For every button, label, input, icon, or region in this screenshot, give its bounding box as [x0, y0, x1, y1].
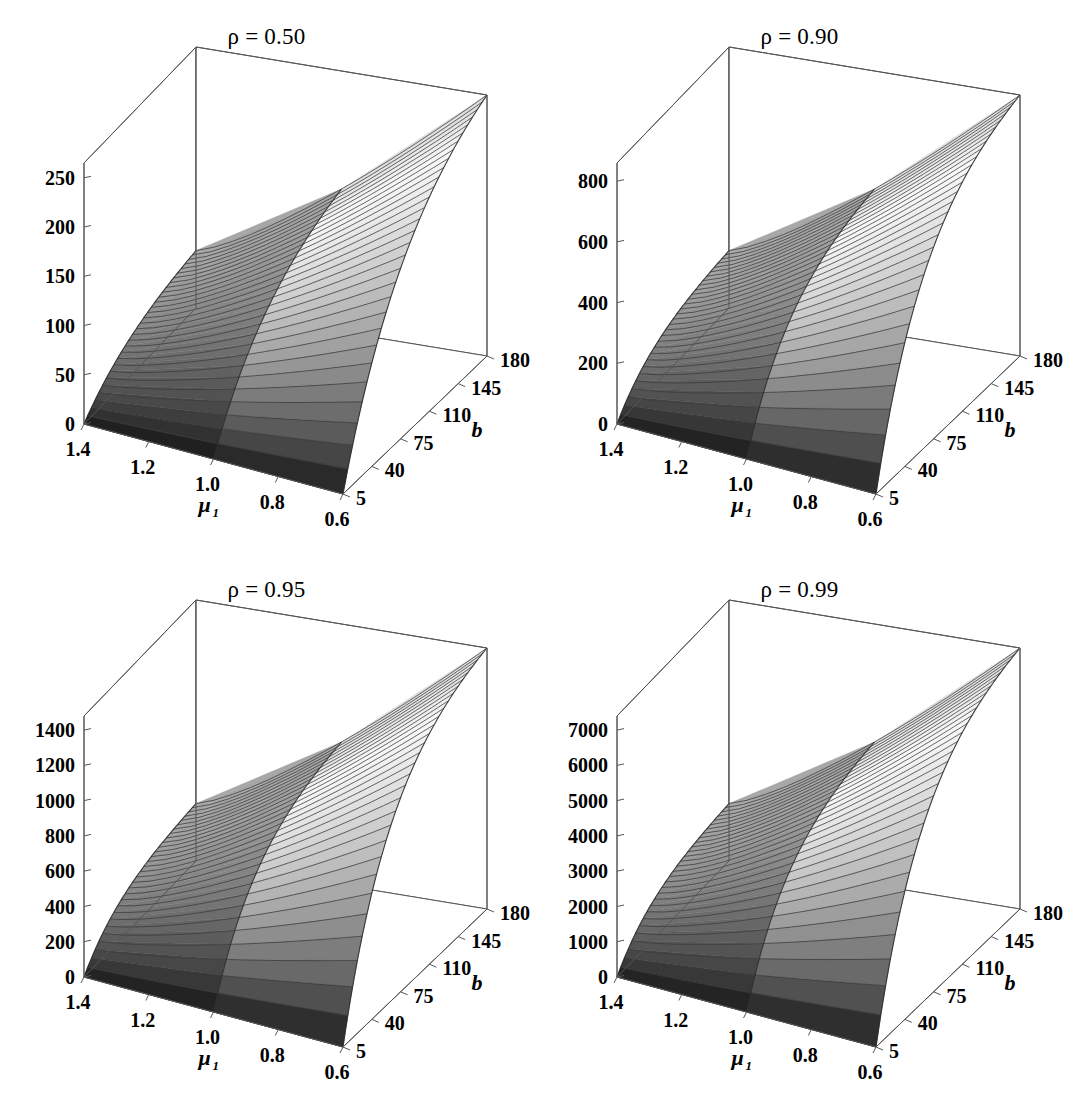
- x-axis-label-subscript: 1: [745, 1058, 752, 1073]
- y-tick-mark: [1020, 909, 1027, 912]
- x-tick-mark: [679, 442, 682, 448]
- z-tick-label: 2000: [568, 896, 608, 918]
- z-tick-label: 100: [45, 315, 75, 337]
- x-axis-label: μ: [731, 1045, 744, 1070]
- y-tick-label: 145: [1004, 377, 1034, 399]
- y-tick-mark: [962, 964, 969, 967]
- panel-rho-099: ρ = 0.99 010002000300040005000600070001.…: [533, 553, 1066, 1106]
- x-tick-mark: [744, 459, 747, 465]
- x-tick-label: 1.2: [663, 456, 688, 478]
- y-tick-label: 40: [918, 459, 938, 481]
- y-tick-mark: [343, 1047, 350, 1050]
- plot-surface-group-0: [84, 47, 487, 494]
- x-tick-mark: [679, 995, 682, 1001]
- y-tick-label: 40: [385, 1012, 405, 1034]
- x-axis-label-subscript: 1: [212, 1058, 219, 1073]
- y-axis-label: b: [1005, 970, 1016, 995]
- panel-title-2: ρ = 0.95: [0, 577, 533, 603]
- y-tick-mark: [458, 384, 465, 387]
- y-tick-label: 180: [500, 902, 530, 924]
- y-tick-mark: [991, 937, 998, 940]
- x-axis-label-subscript: 1: [745, 505, 752, 520]
- surface-plot-0: 0501001502002501.41.21.00.80.6μ154075110…: [0, 0, 533, 553]
- panel-rho-090: ρ = 0.90 02004006008001.41.21.00.80.6μ15…: [533, 0, 1066, 553]
- z-tick-label: 200: [578, 352, 608, 374]
- y-tick-mark: [905, 1019, 912, 1022]
- plot-surface-group-3: [617, 600, 1020, 1047]
- panel-title-3: ρ = 0.99: [533, 577, 1066, 603]
- y-tick-label: 5: [889, 487, 899, 509]
- x-axis-label: μ: [198, 1045, 211, 1070]
- z-tick-label: 200: [45, 216, 75, 238]
- z-tick-label: 4000: [568, 825, 608, 847]
- x-tick-mark: [81, 424, 84, 430]
- y-tick-label: 180: [1033, 902, 1063, 924]
- z-tick-label: 0: [598, 413, 608, 435]
- x-axis-label-subscript: 1: [212, 505, 219, 520]
- y-tick-label: 5: [356, 1040, 366, 1062]
- z-tick-label: 1000: [568, 931, 608, 953]
- y-tick-label: 110: [975, 957, 1004, 979]
- z-tick-label: 3000: [568, 860, 608, 882]
- y-tick-label: 40: [385, 459, 405, 481]
- y-tick-mark: [905, 466, 912, 469]
- x-tick-label: 0.6: [325, 1061, 350, 1083]
- x-tick-label: 1.4: [66, 991, 91, 1013]
- y-tick-mark: [934, 439, 941, 442]
- y-tick-label: 75: [947, 985, 967, 1007]
- x-tick-mark: [808, 1030, 811, 1036]
- x-tick-label: 1.4: [599, 438, 624, 460]
- y-tick-mark: [401, 992, 408, 995]
- x-tick-label: 1.2: [130, 456, 155, 478]
- z-tick-label: 600: [45, 860, 75, 882]
- y-tick-label: 75: [414, 432, 434, 454]
- y-tick-label: 75: [947, 432, 967, 454]
- surface-plot-1: 02004006008001.41.21.00.80.6μ15407511014…: [533, 0, 1066, 553]
- panel-title-text-3: ρ = 0.99: [761, 577, 839, 602]
- x-tick-mark: [873, 494, 876, 500]
- z-tick-label: 1000: [35, 790, 75, 812]
- x-tick-mark: [211, 459, 214, 465]
- y-tick-mark: [934, 992, 941, 995]
- z-tick-label: 200: [45, 931, 75, 953]
- z-tick-label: 6000: [568, 754, 608, 776]
- x-axis-label: μ: [731, 492, 744, 517]
- plot-surface-group-1: [617, 47, 1020, 494]
- x-tick-mark: [275, 477, 278, 483]
- x-tick-label: 0.8: [793, 1044, 818, 1066]
- x-tick-mark: [275, 1030, 278, 1036]
- z-tick-label: 600: [578, 231, 608, 253]
- y-tick-mark: [429, 964, 436, 967]
- y-tick-label: 110: [442, 957, 471, 979]
- panel-title-text-1: ρ = 0.90: [761, 24, 839, 49]
- y-tick-label: 5: [889, 1040, 899, 1062]
- y-tick-mark: [372, 466, 379, 469]
- x-tick-mark: [808, 477, 811, 483]
- y-tick-label: 180: [1033, 349, 1063, 371]
- y-axis-label: b: [1005, 417, 1016, 442]
- z-tick-label: 400: [578, 292, 608, 314]
- y-tick-mark: [876, 494, 883, 497]
- y-tick-label: 75: [414, 985, 434, 1007]
- y-tick-label: 40: [918, 1012, 938, 1034]
- x-tick-mark: [146, 442, 149, 448]
- x-tick-mark: [744, 1012, 747, 1018]
- z-tick-label: 0: [65, 413, 75, 435]
- surface-plot-2: 02004006008001000120014001.41.21.00.80.6…: [0, 553, 533, 1106]
- y-tick-label: 110: [975, 404, 1004, 426]
- plot-surface-group-2: [84, 600, 487, 1047]
- y-tick-label: 110: [442, 404, 471, 426]
- y-tick-mark: [343, 494, 350, 497]
- z-tick-label: 150: [45, 265, 75, 287]
- y-tick-mark: [429, 411, 436, 414]
- y-tick-mark: [991, 384, 998, 387]
- y-tick-mark: [962, 411, 969, 414]
- x-tick-label: 1.4: [66, 438, 91, 460]
- x-tick-label: 0.8: [260, 1044, 285, 1066]
- x-tick-label: 0.8: [260, 491, 285, 513]
- x-tick-label: 0.6: [858, 508, 883, 530]
- z-tick-label: 7000: [568, 719, 608, 741]
- panel-title-text-2: ρ = 0.95: [228, 577, 306, 602]
- x-tick-mark: [211, 1012, 214, 1018]
- panel-title-0: ρ = 0.50: [0, 24, 533, 50]
